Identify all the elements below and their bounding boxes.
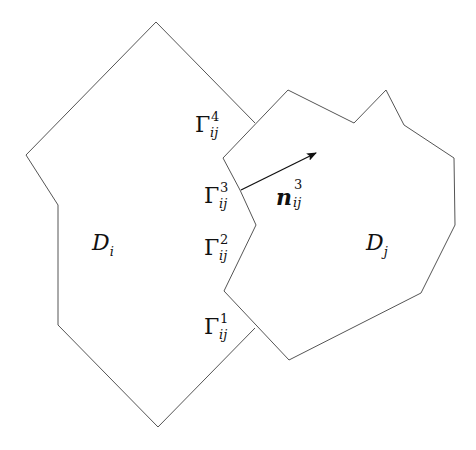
normal-vector-label: n 3 ij xyxy=(276,178,316,212)
gamma-1-symbol: Γ xyxy=(204,316,219,338)
domain-di-boundary xyxy=(26,22,255,427)
domain-di-subscript: i xyxy=(110,244,114,259)
interface-gamma-4-label: Γ 4 ij xyxy=(195,110,235,144)
normal-symbol: n xyxy=(276,186,292,208)
domain-diagram xyxy=(0,0,476,450)
normal-superscript: 3 xyxy=(294,178,302,191)
interface-gamma-1-label: Γ 1 ij xyxy=(204,312,244,346)
gamma-3-symbol: Γ xyxy=(204,185,219,207)
domain-dj-boundary xyxy=(223,90,455,360)
gamma-1-subscript: ij xyxy=(219,328,227,341)
gamma-4-superscript: 4 xyxy=(211,110,219,123)
gamma-3-superscript: 3 xyxy=(220,181,228,194)
domain-di-letter: D xyxy=(92,230,110,255)
normal-subscript: ij xyxy=(293,196,301,209)
gamma-3-subscript: ij xyxy=(219,197,227,210)
domain-dj-letter: D xyxy=(366,230,384,255)
interface-gamma-2-label: Γ 2 ij xyxy=(204,233,244,267)
domain-dj-subscript: j xyxy=(384,244,388,259)
gamma-4-symbol: Γ xyxy=(195,114,210,136)
gamma-2-superscript: 2 xyxy=(220,233,228,246)
gamma-2-subscript: ij xyxy=(219,249,227,262)
domain-dj-label: Dj xyxy=(366,232,388,258)
domain-di-label: Di xyxy=(92,232,114,258)
gamma-2-symbol: Γ xyxy=(204,237,219,259)
interface-gamma-3-label: Γ 3 ij xyxy=(204,181,244,215)
gamma-4-subscript: ij xyxy=(210,126,218,139)
gamma-1-superscript: 1 xyxy=(220,312,228,325)
